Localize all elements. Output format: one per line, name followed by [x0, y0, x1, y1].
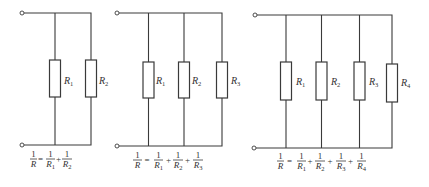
plus-sign: + — [327, 156, 332, 166]
svg-text:R2: R2 — [173, 160, 183, 171]
svg-text:R1: R1 — [45, 159, 55, 170]
fraction-term: 1 R1 — [296, 151, 306, 172]
svg-text:1: 1 — [156, 150, 161, 160]
resistor-r2 — [179, 62, 190, 98]
resistor-r2 — [316, 62, 327, 100]
bottom-wire — [24, 97, 91, 145]
terminal-bottom — [252, 146, 256, 150]
svg-text:1: 1 — [31, 149, 36, 159]
plus-sign: + — [348, 156, 353, 166]
resistor-r1 — [281, 62, 292, 100]
svg-text:R2: R2 — [62, 159, 72, 170]
equals-sign: = — [287, 156, 292, 166]
terminal-bottom — [115, 144, 119, 148]
parallel-resistors-diagram: R1 R2 1 R = 1 R1 + 1 R2 — [0, 0, 429, 187]
resistor-r1 — [143, 62, 154, 98]
svg-text:1: 1 — [278, 151, 283, 161]
svg-text:1: 1 — [299, 151, 304, 161]
svg-text:R1: R1 — [296, 161, 306, 172]
resistor-r3 — [354, 62, 365, 100]
svg-text:R: R — [30, 159, 37, 169]
svg-text:R1: R1 — [153, 160, 163, 171]
top-wire — [24, 13, 91, 60]
svg-text:1: 1 — [196, 150, 201, 160]
svg-text:R4: R4 — [356, 161, 367, 172]
resistor-label: R4 — [400, 77, 411, 89]
bottom-wire — [256, 100, 392, 148]
svg-text:1: 1 — [65, 149, 70, 159]
fraction-term: 1 R2 — [62, 149, 72, 170]
resistor-label: R1 — [63, 75, 73, 87]
fraction-lhs: 1 R — [277, 151, 284, 171]
plus-sign: + — [185, 155, 190, 165]
svg-text:1: 1 — [359, 151, 364, 161]
fraction-term: 1 R2 — [315, 151, 325, 172]
equivalent-resistance-formula: 1 R = 1 R1 + 1 R2 + 1 R3 + — [277, 151, 367, 172]
top-wire — [119, 13, 222, 62]
resistor-label: R3 — [368, 76, 378, 88]
fraction-lhs: 1 R — [133, 150, 142, 170]
svg-text:R: R — [277, 161, 284, 171]
resistor-r4 — [387, 64, 398, 102]
svg-text:R3: R3 — [193, 160, 203, 171]
circuit-two-resistors: R1 R2 1 R = 1 R1 + 1 R2 — [20, 11, 108, 170]
equivalent-resistance-formula: 1 R = 1 R1 + 1 R2 + 1 R3 — [133, 150, 203, 171]
svg-text:R: R — [134, 160, 141, 170]
resistor-label: R1 — [155, 75, 165, 87]
resistor-label: R2 — [330, 76, 340, 88]
circuit-four-resistors: R1 R2 R3 R4 1 R = 1 R1 + 1 R2 + — [252, 13, 411, 172]
terminal-top — [253, 13, 257, 17]
resistor-label: R2 — [98, 75, 108, 87]
plus-sign: + — [307, 156, 312, 166]
equivalent-resistance-formula: 1 R = 1 R1 + 1 R2 — [30, 149, 72, 170]
resistor-label: R3 — [230, 75, 240, 87]
resistor-label: R2 — [191, 75, 201, 87]
terminal-bottom — [20, 143, 24, 147]
equals-sign: = — [38, 154, 43, 164]
resistor-r3 — [217, 62, 228, 98]
svg-text:1: 1 — [339, 151, 344, 161]
plus-sign: + — [166, 155, 171, 165]
fraction-term: 1 R2 — [173, 150, 183, 171]
bottom-wire — [119, 98, 222, 146]
top-wire — [257, 15, 392, 64]
resistor-r2 — [86, 60, 97, 97]
fraction-lhs: 1 R — [30, 149, 37, 169]
resistor-r1 — [50, 60, 61, 97]
svg-text:R2: R2 — [315, 161, 325, 172]
svg-text:1: 1 — [176, 150, 181, 160]
svg-text:R3: R3 — [336, 161, 346, 172]
terminal-top — [115, 11, 119, 15]
resistor-label: R1 — [295, 76, 305, 88]
plus-sign: + — [56, 154, 61, 164]
fraction-term: 1 R1 — [153, 150, 163, 171]
svg-text:1: 1 — [135, 150, 140, 160]
circuit-three-resistors: R1 R2 R3 1 R = 1 R1 + 1 R2 + 1 — [115, 11, 240, 171]
fraction-term: 1 R3 — [336, 151, 346, 172]
equals-sign: = — [144, 155, 149, 165]
svg-text:1: 1 — [48, 149, 53, 159]
fraction-term: 1 R3 — [193, 150, 203, 171]
svg-text:1: 1 — [318, 151, 323, 161]
fraction-term: 1 R4 — [356, 151, 367, 172]
fraction-term: 1 R1 — [45, 149, 55, 170]
terminal-top — [20, 11, 24, 15]
